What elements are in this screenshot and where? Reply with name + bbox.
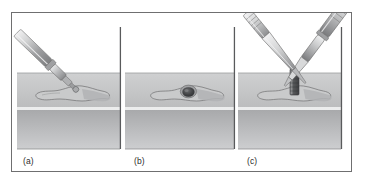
panel-a-caption: (a) xyxy=(23,157,34,166)
tissue-bands-b xyxy=(125,73,234,149)
panel-a-illustration xyxy=(12,13,125,171)
panel-a-svg xyxy=(12,13,125,171)
panel-b-caption: (b) xyxy=(134,157,145,166)
figure-frame: (a) xyxy=(11,12,352,172)
panel-c-illustration xyxy=(238,13,351,171)
panel-a: (a) xyxy=(12,13,125,171)
panel-row: (a) xyxy=(12,13,351,171)
panel-c-svg xyxy=(238,13,351,171)
panel-c: (c) xyxy=(238,13,351,171)
osteotomy-hole-b xyxy=(180,85,196,98)
panel-b-svg xyxy=(125,13,238,171)
panel-c-caption: (c) xyxy=(247,157,257,166)
panel-b-illustration xyxy=(125,13,238,171)
panel-b: (b) xyxy=(125,13,238,171)
tissue-bands-c xyxy=(238,73,341,149)
